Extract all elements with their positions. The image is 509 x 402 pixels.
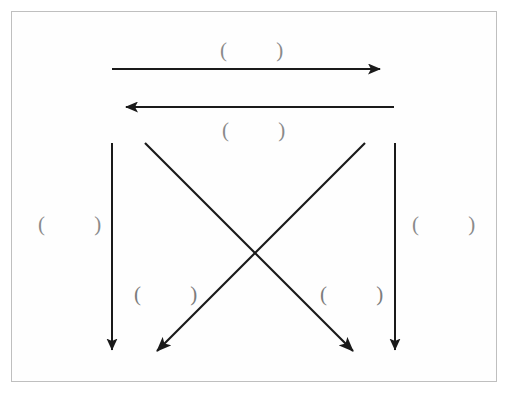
label-right-side: ( ) — [412, 212, 497, 237]
diagonal-arrow-top-right-to-bottom-left — [157, 143, 365, 351]
label-bottom-left-region: ( ) — [134, 282, 219, 307]
label-bottom-right-region: ( ) — [320, 282, 405, 307]
label-left-side: ( ) — [38, 212, 123, 237]
figure-container: ( ) ( ) ( ) ( ) ( ) ( ) — [0, 0, 509, 402]
diagonal-arrow-top-left-to-bottom-right — [145, 143, 353, 351]
label-top-outbound: ( ) — [220, 38, 305, 63]
label-top-inbound: ( ) — [222, 118, 307, 143]
